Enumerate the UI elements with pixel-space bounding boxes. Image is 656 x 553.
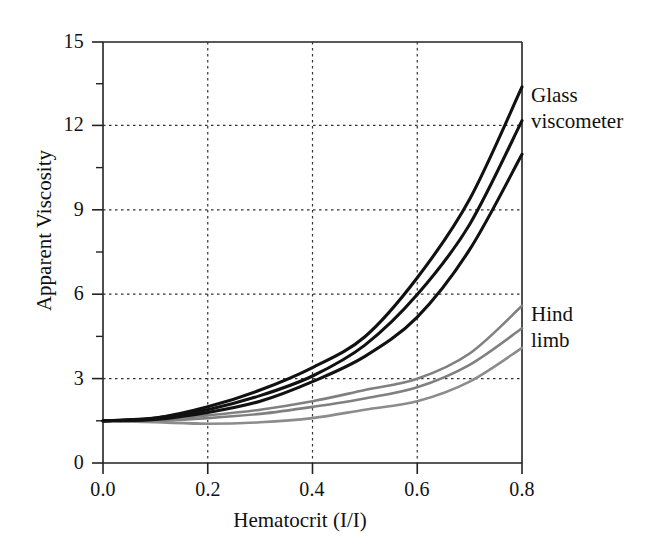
x-axis-title: Hematocrit (I/I) bbox=[0, 508, 600, 533]
series-label-hind-line-2: limb bbox=[531, 328, 573, 354]
series-label-glass-line-2: viscometer bbox=[531, 109, 623, 135]
series-label-glass-viscometer: Glass viscometer bbox=[531, 83, 623, 134]
y-axis-minor-ticks bbox=[96, 84, 103, 421]
vertical-gridlines bbox=[208, 42, 418, 463]
series-label-hind-limb: Hind limb bbox=[531, 302, 573, 353]
y-tick-label-0: 0 bbox=[40, 451, 84, 474]
x-tick-label-0.6: 0.6 bbox=[387, 478, 447, 501]
x-axis-ticks bbox=[103, 463, 522, 474]
y-axis-title: Apparent Viscosity bbox=[32, 91, 57, 371]
x-tick-label-0.2: 0.2 bbox=[178, 478, 238, 501]
chart-figure: 15 12 9 6 3 0 0.0 0.2 0.4 0.6 0.8 Hemato… bbox=[0, 0, 656, 553]
x-tick-label-0.4: 0.4 bbox=[282, 478, 342, 501]
series-hind-limb bbox=[103, 306, 522, 424]
series-label-glass-line-1: Glass bbox=[531, 83, 623, 109]
x-tick-label-0.0: 0.0 bbox=[73, 478, 133, 501]
series-label-hind-line-1: Hind bbox=[531, 302, 573, 328]
y-tick-label-15: 15 bbox=[40, 30, 84, 53]
x-tick-label-0.8: 0.8 bbox=[492, 478, 552, 501]
